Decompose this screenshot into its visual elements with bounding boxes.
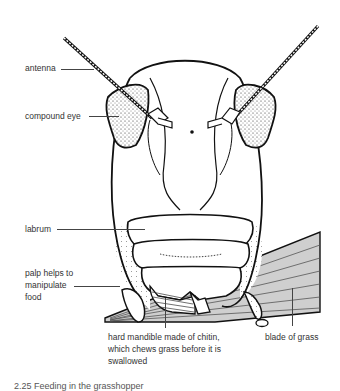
label-palp-line2: manipulate: [25, 279, 67, 291]
label-labrum: labrum: [25, 223, 51, 235]
leader-grass: [292, 288, 293, 326]
leader-palp: [74, 286, 120, 287]
leader-compound-eye: [89, 116, 119, 117]
label-antenna: antenna: [25, 62, 56, 74]
ocellus: [190, 130, 194, 134]
label-compound-eye: compound eye: [25, 110, 81, 122]
label-mandible-line2: which chews grass before it is: [108, 343, 221, 355]
leader-antenna: [61, 69, 94, 70]
palp-tip: [256, 320, 268, 327]
label-mandible-line1: hard mandible made of chitin,: [108, 331, 220, 343]
leader-labrum: [57, 229, 145, 230]
label-palp-line1: palp helps to: [25, 267, 73, 279]
label-blade-of-grass: blade of grass: [265, 331, 318, 343]
label-palp-line3: food: [25, 291, 42, 303]
label-mandible-line3: swallowed: [108, 355, 147, 367]
leader-mandible: [165, 298, 166, 328]
figure-caption: 2.25 Feeding in the grasshopper: [14, 381, 144, 391]
